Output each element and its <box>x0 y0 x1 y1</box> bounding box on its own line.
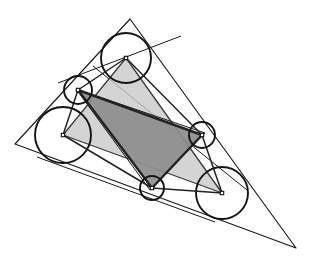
center-left <box>61 133 64 136</box>
center-lower-right <box>220 191 223 194</box>
center-upper-left-small <box>76 88 79 91</box>
center-top <box>124 56 127 59</box>
geometry-figure <box>0 0 312 262</box>
geometry-canvas <box>0 0 312 262</box>
center-bottom-small <box>150 186 153 189</box>
center-right-small <box>200 133 203 136</box>
